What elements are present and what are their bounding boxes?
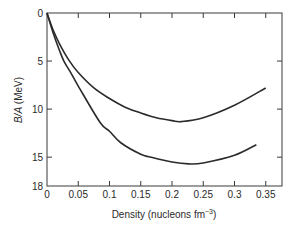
y-tick-label: 10 xyxy=(32,104,44,115)
x-tick-labels: 00.050.10.150.20.250.30.35 xyxy=(44,189,276,200)
x-tick-label: 0.05 xyxy=(69,189,89,200)
x-tick-label: 0.3 xyxy=(228,189,242,200)
upper-curve xyxy=(47,13,266,122)
data-series xyxy=(47,13,266,164)
y-axis-title-symbol: B/A xyxy=(13,107,24,123)
x-tick-label: 0.2 xyxy=(165,189,179,200)
x-axis-title-suffix: ) xyxy=(213,209,216,220)
y-tick-label: 5 xyxy=(37,56,43,67)
x-axis-title-main: Density (nucleons fm xyxy=(112,209,205,220)
x-axis-title: Density (nucleons fm−3) xyxy=(112,208,217,220)
lower-curve xyxy=(47,13,256,164)
x-tick-label: 0 xyxy=(44,189,50,200)
y-tick-label: 15 xyxy=(32,152,44,163)
x-axis-title-superscript: −3 xyxy=(205,208,213,215)
y-axis-title-unit: (MeV) xyxy=(13,77,24,107)
x-tick-label: 0.15 xyxy=(131,189,151,200)
y-tick-label: 18 xyxy=(32,181,44,192)
x-tick-label: 0.1 xyxy=(103,189,117,200)
x-tick-label: 0.25 xyxy=(194,189,214,200)
y-tick-labels: 05101518 xyxy=(32,8,44,192)
binding-energy-chart: 00.050.10.150.20.250.30.35 05101518 Dens… xyxy=(0,0,296,228)
x-tick-label: 0.35 xyxy=(256,189,276,200)
y-axis-title: B/A (MeV) xyxy=(13,77,24,123)
y-tick-label: 0 xyxy=(37,8,43,19)
